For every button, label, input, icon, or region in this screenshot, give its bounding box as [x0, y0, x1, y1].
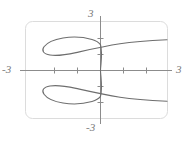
graph-figure: 3 -3 -3 3 [0, 0, 190, 142]
axis-label-x-max: 3 [176, 64, 182, 75]
plot-canvas [0, 0, 190, 142]
axis-label-y-min: -3 [86, 122, 95, 133]
axis-label-x-min: -3 [2, 64, 11, 75]
axis-label-y-max: 3 [88, 8, 94, 19]
